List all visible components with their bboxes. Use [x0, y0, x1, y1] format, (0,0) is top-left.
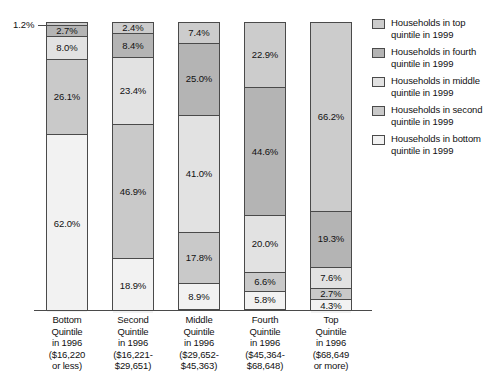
bar-middle-quintile[interactable]: 7.4%25.0%41.0%17.8%8.9% [178, 22, 220, 310]
bars-container: 1.2%2.7%8.0%26.1%62.0%2.4%8.4%23.4%46.9%… [40, 22, 365, 310]
bar-segment[interactable]: 25.0% [179, 44, 219, 116]
x-tick-label-line: in 1996 [112, 337, 154, 349]
legend-label-line: Households in second [391, 104, 482, 116]
x-tick-label-line: Second [112, 314, 154, 326]
x-tick-label-line: Top [310, 314, 352, 326]
x-tick-label-line: ($68,649 [310, 349, 352, 361]
bar-segment[interactable]: 22.9% [245, 23, 285, 88]
plot-area: 1.2%2.7%8.0%26.1%62.0%2.4%8.4%23.4%46.9%… [40, 18, 365, 314]
bar-segment[interactable]: 41.0% [179, 116, 219, 233]
legend-label: Households in fourthquintile in 1999 [391, 46, 476, 69]
legend-label: Households in bottomquintile in 1999 [391, 133, 481, 156]
legend-label-line: quintile in 1999 [391, 29, 465, 41]
segment-value-label: 19.3% [318, 234, 344, 244]
x-axis-line [34, 310, 372, 311]
x-tick-label-line: in 1996 [46, 337, 88, 349]
x-tick-label-line: ($29,652- [178, 349, 220, 361]
legend-label-line: quintile in 1999 [391, 58, 476, 70]
segment-value-label: 8.9% [188, 292, 209, 302]
legend-swatch-icon [372, 106, 385, 116]
bar-segment[interactable]: 19.3% [311, 212, 351, 267]
segment-value-label: 8.0% [56, 43, 77, 53]
segment-value-label: 18.9% [120, 281, 146, 291]
stacked-bar-chart: 1.2% 1.2%2.7%8.0%26.1%62.0%2.4%8.4%23.4%… [0, 0, 498, 392]
x-tick-label-line: or more) [310, 360, 352, 372]
x-tick-label-second-quintile: SecondQuintilein 1996($16,221-$29,651) [112, 314, 154, 388]
segment-value-label: 62.0% [54, 219, 80, 229]
legend-label-line: Households in middle [391, 75, 480, 87]
segment-value-label: 46.9% [120, 187, 146, 197]
x-tick-label-line: Fourth [244, 314, 286, 326]
legend-item-fourth[interactable]: Households in fourthquintile in 1999 [372, 46, 498, 69]
legend-item-bottom[interactable]: Households in bottomquintile in 1999 [372, 133, 498, 156]
segment-value-label: 6.6% [254, 277, 275, 287]
segment-value-label: 5.8% [254, 295, 275, 305]
legend-label: Households in secondquintile in 1999 [391, 104, 482, 127]
callout-label-1-2-percent: 1.2% [13, 19, 34, 30]
legend-item-top[interactable]: Households in topquintile in 1999 [372, 17, 498, 40]
x-tick-label-line: ($16,221- [112, 349, 154, 361]
x-tick-label-fourth-quintile: FourthQuintilein 1996($45,364-$68,648) [244, 314, 286, 388]
bar-top-quintile[interactable]: 66.2%19.3%7.6%2.7%4.3% [310, 22, 352, 310]
legend-item-middle[interactable]: Households in middlequintile in 1999 [372, 75, 498, 98]
bar-segment[interactable]: 2.7% [311, 289, 351, 300]
bar-segment[interactable]: 23.4% [113, 58, 153, 125]
legend-label-line: Households in bottom [391, 133, 481, 145]
legend-swatch-icon [372, 19, 385, 29]
segment-value-label: 41.0% [186, 169, 212, 179]
bar-segment[interactable]: 8.9% [179, 284, 219, 309]
x-tick-label-line: Quintile [46, 326, 88, 338]
x-tick-label-line: in 1996 [310, 337, 352, 349]
segment-value-label: 2.7% [320, 289, 341, 299]
legend-label-line: quintile in 1999 [391, 145, 481, 157]
bar-segment[interactable]: 8.0% [47, 37, 87, 60]
segment-value-label: 25.0% [186, 74, 212, 84]
bar-segment[interactable]: 6.6% [245, 273, 285, 292]
bar-segment[interactable]: 26.1% [47, 60, 87, 135]
segment-value-label: 20.0% [252, 239, 278, 249]
bar-segment[interactable]: 5.8% [245, 292, 285, 309]
x-tick-label-line: Quintile [310, 326, 352, 338]
bar-segment[interactable]: 17.8% [179, 233, 219, 284]
x-tick-label-line: $68,648) [244, 360, 286, 372]
legend-swatch-icon [372, 135, 385, 145]
x-tick-label-bottom-quintile: BottomQuintilein 1996($16,220or less) [46, 314, 88, 388]
bar-segment[interactable]: 2.7% [47, 26, 87, 37]
bar-segment[interactable]: 62.0% [47, 135, 87, 312]
bar-segment[interactable]: 7.6% [311, 268, 351, 290]
x-tick-label-line: Bottom [46, 314, 88, 326]
bar-bottom-quintile[interactable]: 1.2%2.7%8.0%26.1%62.0% [46, 22, 88, 310]
bar-segment[interactable]: 20.0% [245, 216, 285, 273]
x-tick-label-line: in 1996 [178, 337, 220, 349]
x-tick-label-line: Middle [178, 314, 220, 326]
bar-fourth-quintile[interactable]: 22.9%44.6%20.0%6.6%5.8% [244, 22, 286, 310]
legend: Households in topquintile in 1999Househo… [372, 17, 498, 162]
segment-value-label: 8.4% [122, 41, 143, 51]
legend-label-line: quintile in 1999 [391, 87, 480, 99]
x-axis-labels: BottomQuintilein 1996($16,220or less)Sec… [40, 314, 365, 388]
bar-segment[interactable]: 2.4% [113, 23, 153, 34]
bar-segment[interactable]: 44.6% [245, 88, 285, 216]
x-tick-label-line: ($45,364- [244, 349, 286, 361]
bar-segment[interactable]: 66.2% [311, 23, 351, 212]
x-tick-label-line: or less) [46, 360, 88, 372]
x-tick-label-line: Quintile [178, 326, 220, 338]
legend-item-second[interactable]: Households in secondquintile in 1999 [372, 104, 498, 127]
x-tick-label-line: ($16,220 [46, 349, 88, 361]
bar-segment[interactable]: 18.9% [113, 259, 153, 313]
segment-value-label: 2.7% [56, 26, 77, 36]
x-tick-label-line: Quintile [112, 326, 154, 338]
segment-value-label: 2.4% [122, 23, 143, 33]
bar-second-quintile[interactable]: 2.4%8.4%23.4%46.9%18.9% [112, 22, 154, 310]
legend-swatch-icon [372, 48, 385, 58]
segment-value-label: 22.9% [252, 50, 278, 60]
bar-segment[interactable]: 8.4% [113, 34, 153, 58]
legend-label: Households in topquintile in 1999 [391, 17, 465, 40]
segment-value-label: 66.2% [318, 112, 344, 122]
legend-label: Households in middlequintile in 1999 [391, 75, 480, 98]
bar-segment[interactable]: 7.4% [179, 23, 219, 44]
bar-segment[interactable]: 46.9% [113, 125, 153, 259]
x-tick-label-top-quintile: TopQuintilein 1996($68,649or more) [310, 314, 352, 388]
x-tick-label-line: in 1996 [244, 337, 286, 349]
segment-value-label: 7.4% [188, 28, 209, 38]
